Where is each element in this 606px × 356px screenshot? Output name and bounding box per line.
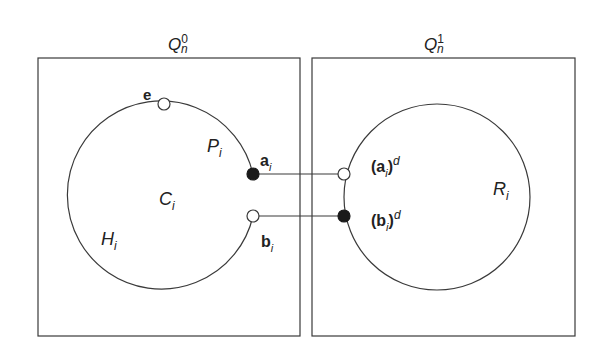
box-q1 <box>312 58 575 336</box>
label-p: Pi <box>207 136 222 160</box>
vertex-b <box>247 210 259 222</box>
label-b-d: (bi)d <box>371 208 401 233</box>
box-q1-label: Q1n <box>424 32 444 56</box>
vertex-b-d <box>338 210 350 222</box>
box-q0-label: Q0n <box>168 32 188 56</box>
vertex-e <box>158 98 170 110</box>
label-r: Ri <box>493 179 509 203</box>
label-a-d: (ai)d <box>371 154 400 179</box>
label-h: Hi <box>101 229 117 253</box>
label-e: e <box>143 86 151 103</box>
label-b: bi <box>261 233 274 254</box>
hypercube-cycle-diagram: Q0n Q1n e ai bi (ai)d (bi)d Pi Ci Hi Ri <box>0 0 606 356</box>
vertex-a <box>247 168 259 180</box>
label-c: Ci <box>159 189 175 213</box>
label-a: ai <box>260 152 272 173</box>
vertex-a-d <box>338 168 350 180</box>
